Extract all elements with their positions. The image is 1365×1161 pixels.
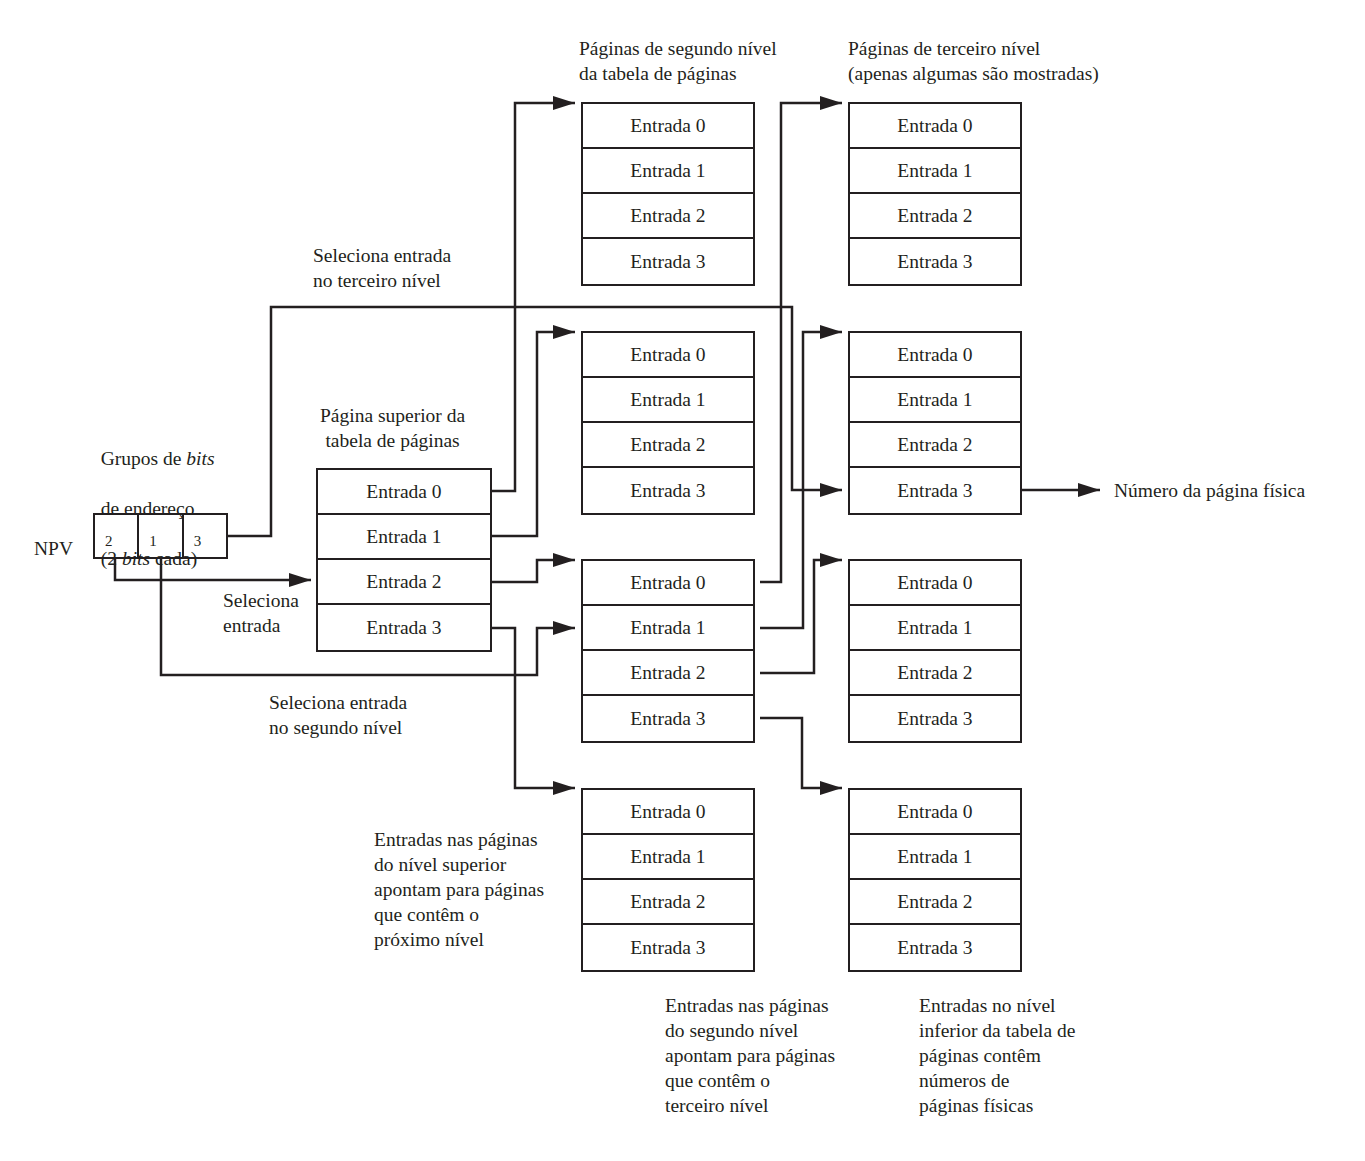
third-level-page-1: Entrada 0 Entrada 1 Entrada 2 Entrada 3: [848, 331, 1022, 515]
note-second-level: Entradas nas páginas do segundo nível ap…: [665, 993, 835, 1118]
entry-3: Entrada 3: [850, 468, 1020, 513]
arrow-top-e2: [492, 560, 575, 582]
second-level-page-2: Entrada 0 Entrada 1 Entrada 2 Entrada 3: [581, 559, 755, 743]
arrow-second-e1: [760, 332, 842, 628]
entry-1: Entrada 1: [583, 606, 753, 651]
arrow-top-e0: [492, 103, 575, 491]
entry-0: Entrada 0: [583, 790, 753, 835]
npv-group-2: 3: [184, 515, 226, 557]
caption-line1-italic: bits: [186, 448, 214, 469]
entry-3: Entrada 3: [583, 468, 753, 513]
entry-0: Entrada 0: [850, 561, 1020, 606]
label-select-entry-l3: Seleciona entrada no terceiro nível: [313, 243, 451, 293]
entry-2: Entrada 2: [583, 651, 753, 696]
entry-2: Entrada 2: [850, 423, 1020, 468]
entry-2: Entrada 2: [583, 194, 753, 239]
entry-0: Entrada 0: [583, 104, 753, 149]
label-npv: NPV: [34, 536, 73, 561]
entry-0: Entrada 0: [583, 333, 753, 378]
second-level-page-3: Entrada 0 Entrada 1 Entrada 2 Entrada 3: [581, 788, 755, 972]
entry-3: Entrada 3: [850, 696, 1020, 741]
entry-1: Entrada 1: [583, 378, 753, 423]
entry-3: Entrada 3: [583, 696, 753, 741]
entry-1: Entrada 1: [850, 378, 1020, 423]
arrow-second-e3: [760, 718, 842, 788]
entry-0: Entrada 0: [850, 104, 1020, 149]
entry-3: Entrada 3: [583, 925, 753, 970]
entry-1: Entrada 1: [850, 606, 1020, 651]
top-entry-2: Entrada 2: [318, 560, 490, 605]
title-top-page: Página superior da tabela de páginas: [320, 403, 465, 453]
label-select-entry-l2: Seleciona entrada no segundo nível: [269, 690, 407, 740]
npv-group-0: 2: [95, 515, 139, 557]
entry-0: Entrada 0: [583, 561, 753, 606]
caption-line1-text: Grupos de: [101, 448, 187, 469]
arrow-second-e0: [760, 103, 842, 582]
npv-group-1: 1: [139, 515, 183, 557]
entry-3: Entrada 3: [850, 239, 1020, 284]
entry-1: Entrada 1: [850, 835, 1020, 880]
second-level-page-1: Entrada 0 Entrada 1 Entrada 2 Entrada 3: [581, 331, 755, 515]
entry-3: Entrada 3: [850, 925, 1020, 970]
entry-1: Entrada 1: [583, 835, 753, 880]
entry-2: Entrada 2: [583, 423, 753, 468]
top-page-table: Entrada 0 Entrada 1 Entrada 2 Entrada 3: [316, 468, 492, 652]
third-level-page-0: Entrada 0 Entrada 1 Entrada 2 Entrada 3: [848, 102, 1022, 286]
label-select-entry-l1: Seleciona entrada: [223, 588, 299, 638]
third-level-page-3: Entrada 0 Entrada 1 Entrada 2 Entrada 3: [848, 788, 1022, 972]
third-level-page-2: Entrada 0 Entrada 1 Entrada 2 Entrada 3: [848, 559, 1022, 743]
top-entry-0: Entrada 0: [318, 470, 490, 515]
entry-1: Entrada 1: [850, 149, 1020, 194]
entry-2: Entrada 2: [850, 194, 1020, 239]
note-third-level: Entradas no nível inferior da tabela de …: [919, 993, 1075, 1118]
entry-2: Entrada 2: [850, 651, 1020, 696]
top-entry-1: Entrada 1: [318, 515, 490, 560]
note-top-level: Entradas nas páginas do nível superior a…: [374, 827, 544, 952]
arrow-top-e3: [492, 628, 575, 788]
top-entry-3: Entrada 3: [318, 605, 490, 650]
entry-3: Entrada 3: [583, 239, 753, 284]
arrow-top-e1: [492, 332, 575, 536]
title-third-level: Páginas de terceiro nível (apenas alguma…: [848, 36, 1099, 86]
label-physical-page-number: Número da página física: [1114, 478, 1305, 503]
entry-1: Entrada 1: [583, 149, 753, 194]
arrow-second-e2: [760, 560, 842, 673]
entry-0: Entrada 0: [850, 790, 1020, 835]
npv-bit-groups: 2 1 3: [93, 513, 228, 559]
title-second-level: Páginas de segundo nível da tabela de pá…: [579, 36, 777, 86]
entry-2: Entrada 2: [850, 880, 1020, 925]
entry-2: Entrada 2: [583, 880, 753, 925]
second-level-page-0: Entrada 0 Entrada 1 Entrada 2 Entrada 3: [581, 102, 755, 286]
entry-0: Entrada 0: [850, 333, 1020, 378]
